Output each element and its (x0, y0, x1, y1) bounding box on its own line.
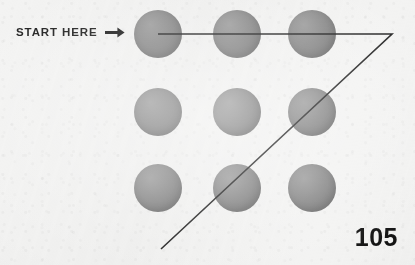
dot-r3c1 (134, 164, 182, 212)
arrow-right-icon (105, 27, 125, 38)
start-here-annotation: START HERE (16, 26, 125, 38)
dot-r3c3 (288, 164, 336, 212)
puzzle-page: START HERE 105 (0, 0, 415, 265)
page-vignette (0, 0, 415, 265)
solution-line-layer (0, 0, 415, 265)
dot-r2c3 (288, 88, 336, 136)
start-here-label: START HERE (16, 26, 98, 38)
dot-r2c1 (134, 88, 182, 136)
dot-r1c3 (288, 10, 336, 58)
dot-r1c2 (213, 10, 261, 58)
dot-r2c2 (213, 88, 261, 136)
page-number: 105 (355, 223, 398, 252)
paper-texture (0, 0, 415, 265)
solution-path-line (158, 34, 392, 249)
dot-r1c1 (134, 10, 182, 58)
dot-r3c2 (213, 164, 261, 212)
